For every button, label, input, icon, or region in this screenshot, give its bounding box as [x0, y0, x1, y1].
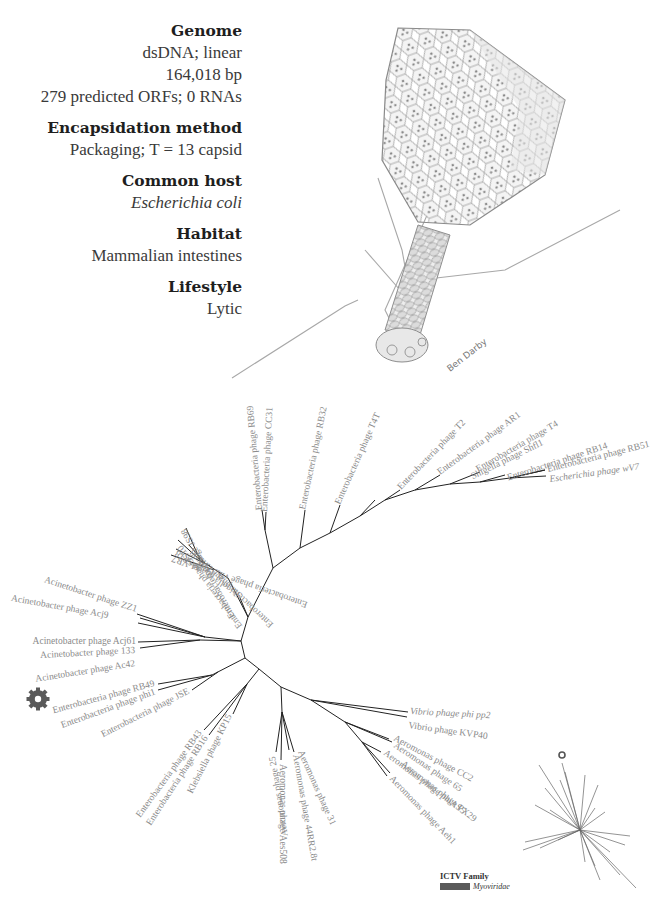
leaf-label: Enterobacteria phage CC31	[259, 406, 274, 512]
leaf-label: Vibrio phage phi pp2	[410, 706, 491, 720]
legend-family-label: Myoviridae	[473, 882, 510, 891]
legend: ICTV Family Myoviridae	[440, 871, 510, 891]
leaf-label: Aeromonas phage Aes508	[278, 764, 288, 864]
phylogenetic-tree: Enterobacteria phage JS98 Enterobacteria…	[0, 0, 666, 910]
leaf-label: Vibrio phage KVP40	[408, 720, 489, 741]
overview-tree	[523, 752, 636, 888]
legend-row: Myoviridae	[440, 882, 510, 891]
legend-title: ICTV Family	[440, 871, 510, 881]
leaf-label: Enterobacteria phage T4T	[333, 411, 382, 506]
leaf-label: Enterobacteria phage RB32	[297, 405, 329, 510]
leaf-label: Acinetobacter phage 133	[40, 645, 136, 660]
leaf-labels: Enterobacteria phage JS98 Enterobacteria…	[10, 405, 650, 864]
gear-icon	[27, 688, 50, 711]
legend-swatch	[440, 883, 470, 890]
leaf-label: Acinetobacter phage Ac42	[35, 658, 136, 684]
leaf-label: Acinetobacter phage Acj61	[33, 636, 137, 646]
